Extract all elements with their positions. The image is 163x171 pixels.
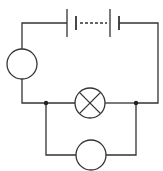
junction-right-dot bbox=[134, 101, 138, 105]
wire-parallel-left bbox=[46, 103, 76, 155]
meter-bottom-icon bbox=[76, 140, 106, 170]
lamp-icon bbox=[75, 88, 105, 118]
junction-left-dot bbox=[44, 101, 48, 105]
wire-left-down bbox=[22, 79, 75, 103]
wire-top-right bbox=[119, 23, 158, 103]
wire-top-left bbox=[22, 23, 67, 49]
wire-parallel-right bbox=[106, 103, 136, 155]
circuit-diagram bbox=[0, 0, 163, 171]
meter-left-icon bbox=[7, 49, 37, 79]
battery-icon bbox=[67, 9, 119, 37]
